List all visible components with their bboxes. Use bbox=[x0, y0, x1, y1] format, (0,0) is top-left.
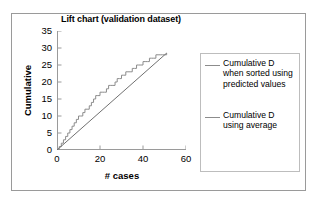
y-tick-label: 20 bbox=[30, 77, 52, 87]
chart-legend: Cumulative D when sorted using predicted… bbox=[200, 53, 300, 172]
y-tick-label: 35 bbox=[30, 26, 52, 36]
legend-line-icon bbox=[205, 61, 220, 70]
plot-svg bbox=[57, 31, 186, 150]
x-tick-label: 60 bbox=[174, 154, 198, 164]
x-tick-label: 0 bbox=[45, 154, 69, 164]
x-axis-title: # cases bbox=[57, 170, 187, 181]
legend-entry-average: Cumulative D using average bbox=[205, 110, 295, 131]
y-tick-label: 15 bbox=[30, 94, 52, 104]
y-tick-label: 10 bbox=[30, 111, 52, 121]
series-line bbox=[57, 53, 167, 150]
legend-label: Cumulative D using average bbox=[223, 110, 295, 131]
y-tick-label: 25 bbox=[30, 60, 52, 70]
lift-chart-screenshot: Lift chart (validation dataset) Cumulati… bbox=[0, 0, 319, 214]
chart-title: Lift chart (validation dataset) bbox=[46, 14, 196, 24]
legend-line-icon bbox=[205, 113, 220, 122]
x-tick-label: 40 bbox=[131, 154, 155, 164]
legend-entry-predicted: Cumulative D when sorted using predicted… bbox=[205, 58, 295, 89]
plot-area bbox=[57, 31, 186, 150]
x-tick-label: 20 bbox=[88, 154, 112, 164]
y-tick-label: 5 bbox=[30, 128, 52, 138]
legend-label: Cumulative D when sorted using predicted… bbox=[223, 58, 295, 89]
y-axis-title: Cumulative bbox=[22, 46, 33, 136]
y-tick-label: 30 bbox=[30, 43, 52, 53]
